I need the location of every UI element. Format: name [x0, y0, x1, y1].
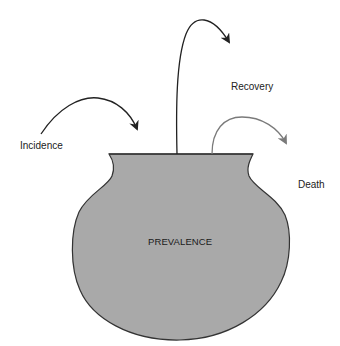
incidence-arrow-icon	[41, 98, 137, 134]
incidence-label: Incidence	[20, 141, 63, 151]
prevalence-pot	[72, 154, 289, 340]
recovery-arrow-icon	[177, 20, 229, 154]
death-label: Death	[298, 180, 325, 190]
recovery-label: Recovery	[231, 82, 273, 92]
prevalence-label: PREVALENCE	[148, 237, 212, 247]
death-arrow-icon	[212, 117, 286, 154]
diagram-canvas	[0, 0, 340, 346]
